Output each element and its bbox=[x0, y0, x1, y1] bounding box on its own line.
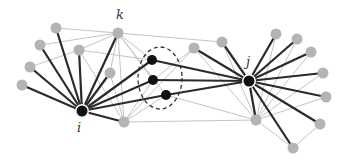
weak-edge bbox=[124, 120, 256, 122]
node-c1 bbox=[189, 43, 200, 54]
weak-edge bbox=[40, 33, 118, 45]
node-a2 bbox=[35, 40, 46, 51]
hub-node-j bbox=[244, 76, 255, 87]
node-d2 bbox=[292, 34, 303, 45]
node-b0 bbox=[119, 117, 130, 128]
node-d6 bbox=[315, 119, 326, 130]
weak-edge bbox=[118, 33, 124, 122]
middle-node-m3 bbox=[161, 90, 171, 100]
node-c3 bbox=[251, 115, 262, 126]
node-label-i: i bbox=[77, 120, 81, 135]
node-label-j: j bbox=[243, 54, 250, 69]
node-d3 bbox=[306, 47, 317, 58]
weak-edge bbox=[256, 120, 293, 148]
graph-svg: i j k bbox=[0, 0, 347, 160]
node-a1 bbox=[51, 23, 62, 34]
node-label-k: k bbox=[116, 7, 124, 22]
strong-edge bbox=[153, 80, 249, 81]
weak-edge bbox=[56, 28, 118, 33]
strong-edge bbox=[166, 81, 249, 95]
node-d7 bbox=[288, 143, 299, 154]
node-a3 bbox=[25, 62, 36, 73]
node-k bbox=[113, 28, 124, 39]
node-d5 bbox=[321, 92, 332, 103]
node-a5 bbox=[74, 45, 85, 56]
weak-edge bbox=[124, 48, 194, 122]
node-d4 bbox=[318, 68, 329, 79]
node-c2 bbox=[217, 37, 228, 48]
network-diagram: i j k bbox=[0, 0, 347, 160]
middle-node-m2 bbox=[148, 75, 158, 85]
weak-edge bbox=[166, 95, 256, 120]
node-a4 bbox=[17, 80, 28, 91]
strong-edges bbox=[22, 28, 326, 148]
node-a6 bbox=[105, 68, 116, 79]
hub-node-i bbox=[77, 106, 88, 117]
weak-edge bbox=[30, 50, 79, 67]
weak-edge bbox=[110, 33, 118, 73]
weak-edge bbox=[118, 33, 222, 42]
middle-node-m1 bbox=[147, 55, 157, 65]
node-d1 bbox=[271, 29, 282, 40]
